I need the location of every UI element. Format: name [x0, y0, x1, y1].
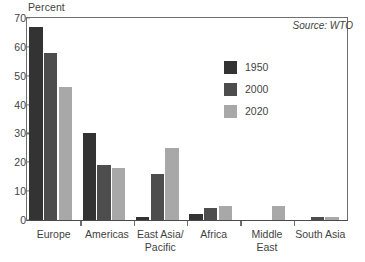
bars-layer — [27, 18, 347, 220]
y-axis-tick-label: 30 — [4, 127, 26, 139]
x-axis-tick-mark — [240, 221, 241, 226]
bar — [97, 165, 111, 220]
y-axis-tick-label: 60 — [4, 41, 26, 53]
y-axis-tick-label: 50 — [4, 70, 26, 82]
bar — [59, 87, 73, 220]
legend-swatch-icon — [224, 83, 237, 96]
y-axis-tick-label: 20 — [4, 156, 26, 168]
bar-group — [296, 18, 339, 220]
bar-group — [29, 18, 72, 220]
bar — [112, 168, 126, 220]
y-axis-tick-label: 10 — [4, 185, 26, 197]
bar-group — [136, 18, 179, 220]
x-axis-tick-mark — [80, 221, 81, 226]
bar — [311, 217, 325, 220]
bar-group — [83, 18, 126, 220]
legend-swatch-icon — [224, 61, 237, 74]
legend: 195020002020 — [224, 56, 268, 122]
bar — [272, 206, 286, 220]
bar — [204, 208, 218, 220]
legend-label: 2000 — [245, 83, 268, 95]
bar — [44, 53, 58, 220]
legend-item: 2020 — [224, 100, 268, 122]
legend-label: 1950 — [245, 61, 268, 73]
bar — [29, 27, 43, 220]
bar — [189, 214, 203, 220]
y-axis-tick-label: 70 — [4, 12, 26, 24]
x-axis-tick-mark — [134, 221, 135, 226]
legend-item: 2000 — [224, 78, 268, 100]
bar — [151, 174, 165, 220]
source-annotation: Source: WTO — [293, 20, 353, 31]
bar — [136, 217, 150, 220]
bar — [219, 206, 233, 220]
x-axis-tick-mark — [187, 221, 188, 226]
bar-chart: Percent 010203040506070 EuropeAmericasEa… — [0, 0, 365, 262]
legend-label: 2020 — [245, 105, 268, 117]
legend-swatch-icon — [224, 105, 237, 118]
y-axis-tick-label: 40 — [4, 99, 26, 111]
legend-item: 1950 — [224, 56, 268, 78]
bar — [325, 217, 339, 220]
x-axis-tick-label: South Asia — [286, 228, 355, 241]
bar — [165, 148, 179, 220]
y-axis-tick-label: 0 — [4, 214, 26, 226]
bar — [83, 133, 97, 220]
y-axis-title: Percent — [28, 1, 65, 13]
y-axis: 010203040506070 — [0, 0, 26, 262]
x-axis-tick-mark — [294, 221, 295, 226]
